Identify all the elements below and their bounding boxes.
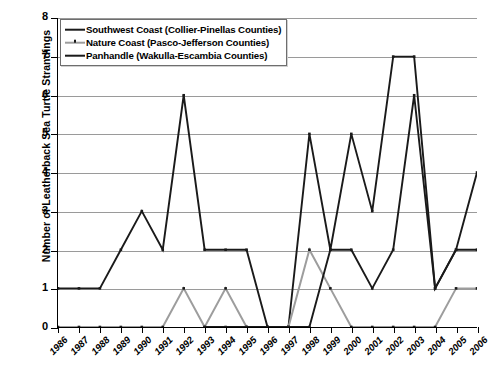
data-point-marker [78,287,81,290]
data-point-marker [141,210,144,213]
data-point-marker [413,55,416,58]
x-axis-tick-label: 1990 [131,334,154,357]
legend-swatch-southwest-coast-icon [64,24,86,35]
data-point-marker [476,171,477,174]
y-axis-tick [51,251,58,252]
x-axis-tick-label: 1987 [68,334,91,357]
x-axis-tick-label: 2002 [383,334,406,357]
data-point-marker [329,287,332,290]
data-point-marker [224,248,227,251]
data-point-marker [392,248,395,251]
x-axis-tick [394,327,395,333]
data-point-marker [224,287,227,290]
x-axis-tick-label: 2004 [425,334,448,357]
x-axis-tick [331,327,332,333]
data-point-marker [371,210,374,213]
y-axis-tick-label: 8 [42,10,48,22]
x-axis-tick-label: 2001 [362,334,385,357]
y-axis-tick-label: 2 [42,243,48,255]
data-point-marker [329,248,332,251]
y-axis-tick-label: 3 [42,204,48,216]
y-axis-tick [51,328,58,329]
y-axis-tick [51,289,58,290]
series-line [205,95,477,327]
x-axis-tick-label: 1996 [257,334,280,357]
y-axis-tick-label: 4 [42,165,48,177]
data-point-marker [434,326,437,327]
x-axis-tick-label: 2005 [446,334,469,357]
x-axis-tick-label: 1991 [152,334,175,357]
data-point-marker [371,287,374,290]
chart-legend: Southwest Coast (Collier-Pinellas Counti… [60,19,287,66]
data-point-marker [455,287,458,290]
data-point-marker [455,248,458,251]
x-axis-tick [415,327,416,333]
x-axis-tick [121,327,122,333]
data-point-marker [371,326,374,327]
data-point-marker [350,133,353,136]
data-point-marker [203,326,206,327]
x-axis-tick [478,327,479,333]
x-axis-tick [373,327,374,333]
data-point-marker [287,326,290,327]
y-axis-tick [51,173,58,174]
legend-label-panhandle: Panhandle (Wakulla-Escambia Counties) [86,50,267,61]
legend-label-southwest-coast: Southwest Coast (Collier-Pinellas Counti… [86,24,281,35]
data-point-marker [476,287,477,290]
x-axis-tick [163,327,164,333]
data-point-marker [308,133,311,136]
data-point-marker [99,287,102,290]
x-axis-tick-label: 1995 [236,334,259,357]
data-point-marker [120,326,123,327]
data-point-marker [434,287,437,290]
x-axis-tick-label: 1998 [299,334,322,357]
x-axis-tick-label: 1993 [194,334,217,357]
data-point-marker [350,326,353,327]
data-point-marker [392,55,395,58]
data-point-marker [308,326,311,327]
x-axis-tick [205,327,206,333]
y-axis-tick [51,212,58,213]
y-axis-tick-label: 5 [42,126,48,138]
x-axis-tick-label: 2006 [467,334,490,357]
x-axis-tick [184,327,185,333]
data-point-marker [245,248,248,251]
x-axis-tick-label: 2003 [404,334,427,357]
x-axis-tick [100,327,101,333]
legend-item: Panhandle (Wakulla-Escambia Counties) [64,49,281,62]
x-axis-tick-label: 1986 [47,334,70,357]
data-point-marker [161,326,164,327]
legend-label-nature-coast: Nature Coast (Pasco-Jefferson Counties) [86,37,269,48]
y-axis-tick-label: 0 [42,320,48,332]
x-axis-tick [79,327,80,333]
x-axis-tick-label: 1992 [173,334,196,357]
data-point-marker [161,248,164,251]
y-axis-tick-label: 6 [42,88,48,100]
x-axis-tick-label: 1988 [89,334,112,357]
x-axis-tick [436,327,437,333]
data-point-marker [120,248,123,251]
y-axis-tick-label: 1 [42,281,48,293]
series-line [58,250,477,327]
legend-item: Nature Coast (Pasco-Jefferson Counties) [64,36,281,49]
x-axis-tick [58,327,59,333]
data-point-marker [308,248,311,251]
x-axis-tick [289,327,290,333]
x-axis-tick [142,327,143,333]
x-axis-tick-label: 1989 [110,334,133,357]
x-axis-tick [226,327,227,333]
x-axis-tick [310,327,311,333]
x-axis-tick [268,327,269,333]
x-axis-tick-label: 1999 [320,334,343,357]
data-point-marker [266,326,269,327]
data-point-marker [58,326,59,327]
x-axis-tick [457,327,458,333]
x-axis-tick-label: 1994 [215,334,238,357]
data-point-marker [203,248,206,251]
data-point-marker [78,326,81,327]
data-point-marker [58,287,59,290]
x-axis-tick-label: 2000 [341,334,364,357]
y-axis-tick [51,57,58,58]
data-point-marker [182,287,185,290]
y-axis-tick-label: 7 [42,49,48,61]
